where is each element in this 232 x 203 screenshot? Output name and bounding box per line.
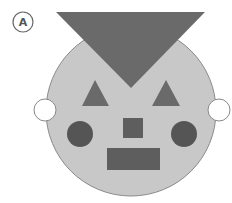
left-ear-circle — [34, 99, 56, 121]
nose-square — [123, 118, 143, 138]
mouth-rectangle — [107, 148, 160, 170]
left-eye-circle — [67, 121, 93, 147]
right-eye-circle — [171, 121, 197, 147]
label-letter: A — [19, 16, 28, 29]
right-ear-circle — [208, 99, 230, 121]
figure-label: A — [13, 12, 33, 32]
face-diagram: A — [0, 0, 232, 203]
